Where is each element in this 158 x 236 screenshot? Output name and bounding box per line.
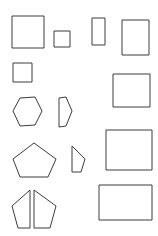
square-shape — [13, 63, 32, 82]
shape-canvas-svg — [0, 0, 158, 236]
square-shape — [54, 31, 70, 47]
shape-drawing-canvas — [0, 0, 158, 236]
rectangle-shape — [92, 18, 105, 45]
square-shape — [12, 16, 44, 48]
rectangle-shape — [122, 20, 149, 55]
rectangle-shape — [106, 130, 152, 170]
rectangle-shape — [99, 185, 152, 220]
square-shape — [113, 74, 150, 107]
